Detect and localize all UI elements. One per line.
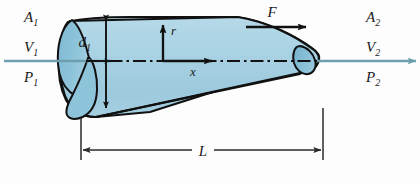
outlet-area-label: A2 xyxy=(365,9,380,28)
outlet-velocity-label: V2 xyxy=(366,39,380,58)
streamlined-body xyxy=(58,17,319,119)
figure-container: d1 r x F L A1 V1 xyxy=(0,0,420,183)
outlet-pressure-label: P2 xyxy=(365,69,380,88)
x-axis-label: x xyxy=(189,64,196,79)
inlet-velocity-label: V1 xyxy=(24,39,38,58)
length-label: L xyxy=(198,143,207,159)
streamlined-body-diagram: d1 r x F L A1 V1 xyxy=(0,0,420,183)
force-label: F xyxy=(266,4,277,20)
inlet-area-label: A1 xyxy=(23,9,38,28)
inlet-pressure-label: P1 xyxy=(23,69,38,88)
